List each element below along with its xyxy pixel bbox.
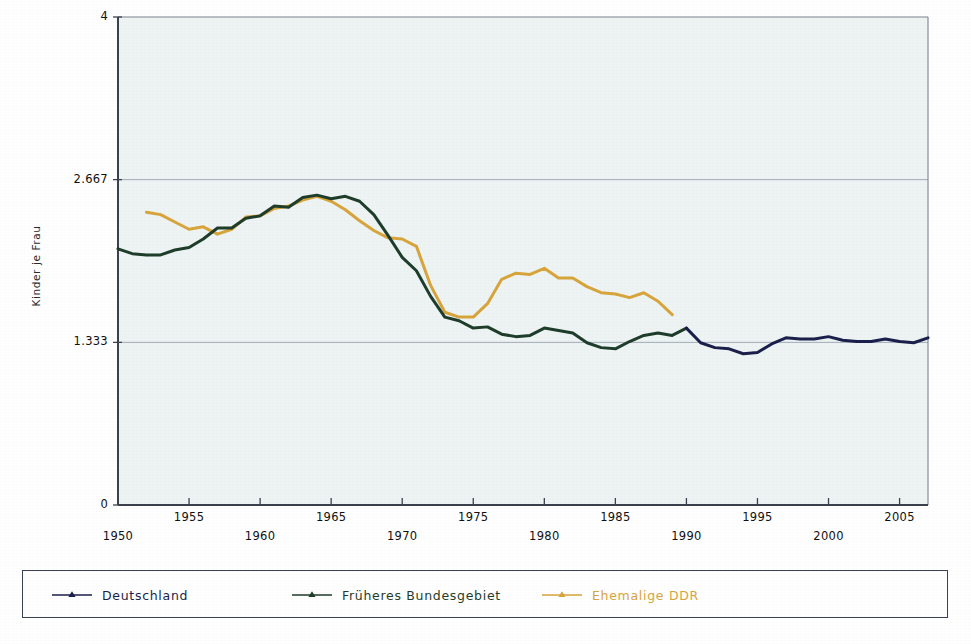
x-tick-label: 2005: [870, 510, 930, 524]
legend-marker-icon: [291, 589, 333, 601]
legend-label: Früheres Bundesgebiet: [342, 588, 501, 603]
x-tick-label: 1950: [88, 529, 148, 543]
x-tick-label: 1975: [443, 510, 503, 524]
legend-item-fr-heres-bundesgebiet[interactable]: Früheres Bundesgebiet: [291, 583, 501, 607]
legend-item-ehemalige-ddr[interactable]: Ehemalige DDR: [541, 583, 699, 607]
plot-background: [118, 17, 928, 505]
x-tick-label: 1960: [230, 529, 290, 543]
legend-marker-icon: [541, 589, 583, 601]
y-tick-label: 0: [38, 497, 108, 511]
x-tick-label: 1970: [372, 529, 432, 543]
legend-label: Ehemalige DDR: [592, 588, 699, 603]
y-tick-label: 4: [38, 9, 108, 23]
x-tick-label: 1965: [301, 510, 361, 524]
legend-item-deutschland[interactable]: Deutschland: [51, 583, 188, 607]
fertility-rate-chart-figure: Kinder je Frau 01.3332.6674 195019551960…: [0, 0, 971, 644]
y-axis-title: Kinder je Frau: [30, 186, 42, 346]
y-tick-label: 1.333: [38, 334, 108, 348]
chart-plot-area: Kinder je Frau: [0, 0, 971, 560]
x-tick-label: 1955: [159, 510, 219, 524]
chart-legend: DeutschlandFrüheres BundesgebietEhemalig…: [22, 570, 948, 618]
x-tick-label: 2000: [799, 529, 859, 543]
x-tick-label: 1980: [514, 529, 574, 543]
chart-svg: [0, 0, 971, 560]
legend-label: Deutschland: [102, 588, 188, 603]
legend-marker-icon: [51, 589, 93, 601]
x-tick-label: 1985: [585, 510, 645, 524]
y-tick-label: 2.667: [38, 172, 108, 186]
x-tick-label: 1995: [727, 510, 787, 524]
x-tick-label: 1990: [656, 529, 716, 543]
